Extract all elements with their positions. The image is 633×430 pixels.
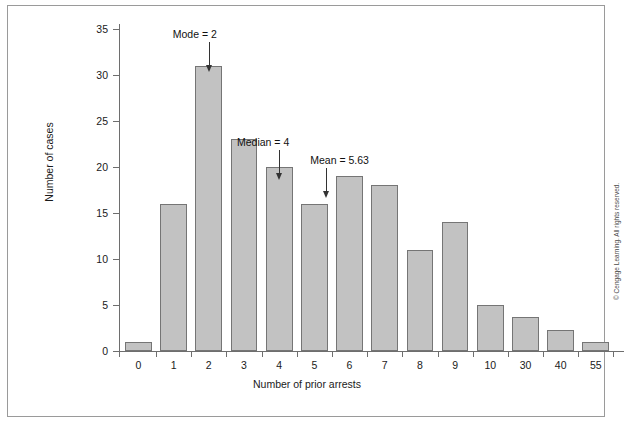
x-axis-line [119, 351, 624, 352]
y-tick [113, 213, 119, 214]
annotation-arrow-icon [209, 42, 210, 66]
chart-panel: 05101520253035 012345678910304055 Mode =… [7, 5, 605, 417]
y-axis-title: Number of cases [43, 102, 55, 222]
x-tick [367, 352, 368, 357]
x-tick-label: 2 [194, 359, 224, 371]
x-tick [402, 352, 403, 357]
x-tick-label: 5 [299, 359, 329, 371]
bar [231, 139, 258, 351]
bar [477, 305, 504, 351]
x-tick [578, 352, 579, 357]
y-tick-label-text: 15 [84, 207, 108, 219]
x-tick [262, 352, 263, 357]
x-tick [332, 352, 333, 357]
bar [512, 317, 539, 351]
bar [195, 66, 222, 351]
bar [582, 342, 609, 351]
x-tick [543, 352, 544, 357]
x-tick-label: 3 [229, 359, 259, 371]
bar [160, 204, 187, 351]
bar [407, 250, 434, 351]
x-tick-label: 8 [405, 359, 435, 371]
y-tick [113, 75, 119, 76]
x-tick [191, 352, 192, 357]
x-tick [438, 352, 439, 357]
bar [125, 342, 152, 351]
y-tick-label-text: 35 [84, 23, 108, 35]
annotation-arrow-icon [326, 168, 327, 192]
x-tick-label: 40 [546, 359, 576, 371]
x-tick-label: 7 [370, 359, 400, 371]
y-tick [113, 29, 119, 30]
x-tick-label: 10 [475, 359, 505, 371]
bar [301, 204, 328, 351]
y-tick-label-text: 30 [84, 69, 108, 81]
figure-container: 05101520253035 012345678910304055 Mode =… [0, 0, 633, 430]
x-tick [613, 352, 614, 357]
y-tick-label-text: 10 [84, 253, 108, 265]
annotation-label: Mode = 2 [173, 28, 217, 40]
y-tick [113, 305, 119, 306]
x-tick-label: 55 [581, 359, 611, 371]
x-tick [473, 352, 474, 357]
bar [547, 330, 574, 351]
x-tick-label: 30 [510, 359, 540, 371]
y-tick-label-text: 20 [84, 161, 108, 173]
y-tick [113, 259, 119, 260]
copyright-notice: © Cengage Learning. All rights reserved. [613, 170, 620, 300]
figure-caption [14, 423, 574, 430]
bar [266, 167, 293, 351]
x-axis-title: Number of prior arrests [8, 378, 606, 390]
y-tick-label-text: 0 [84, 345, 108, 357]
x-tick-label: 1 [159, 359, 189, 371]
x-tick [297, 352, 298, 357]
x-tick [156, 352, 157, 357]
annotation-arrow-icon [279, 150, 280, 174]
y-tick [113, 167, 119, 168]
bar [336, 176, 363, 351]
plot-area: 05101520253035 012345678910304055 Mode =… [8, 6, 606, 418]
y-tick-label-text: 5 [84, 299, 108, 311]
annotation-label: Mean = 5.63 [310, 154, 369, 166]
x-tick-label: 9 [440, 359, 470, 371]
x-tick-label: 0 [123, 359, 153, 371]
x-tick-label: 4 [264, 359, 294, 371]
x-tick [226, 352, 227, 357]
y-tick-label-text: 25 [84, 115, 108, 127]
annotation-label: Median = 4 [237, 136, 289, 148]
bar [442, 222, 469, 351]
x-tick [508, 352, 509, 357]
x-tick [119, 352, 120, 357]
y-tick [113, 121, 119, 122]
bar [371, 185, 398, 351]
y-axis-line [119, 24, 120, 352]
x-tick-label: 6 [335, 359, 365, 371]
